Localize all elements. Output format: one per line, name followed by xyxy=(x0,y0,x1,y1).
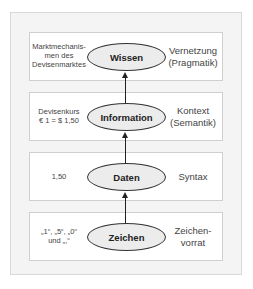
text-line: Syntax xyxy=(164,171,222,183)
arrow-line xyxy=(125,197,126,223)
arrowhead-icon xyxy=(122,192,128,198)
example-label: Devisenkurs € 1 = $ 1,50 xyxy=(30,107,88,125)
node-daten: Daten xyxy=(87,163,166,191)
example-label: 1,50 xyxy=(30,172,88,181)
text-line: 1,50 xyxy=(30,172,88,181)
layer-zeichen: „1“, „5“, „0“ und „,“ Zeichen Zeichen- v… xyxy=(29,212,223,261)
text-line: (Semantik) xyxy=(164,117,222,129)
arrowhead-icon xyxy=(122,132,128,138)
text-line: Kontext xyxy=(164,105,222,117)
text-line: Marktmechanis- xyxy=(30,42,88,51)
text-line: Devisenmarktes xyxy=(30,60,88,69)
example-label: „1“, „5“, „0“ und „,“ xyxy=(30,227,88,245)
node-zeichen: Zeichen xyxy=(87,223,166,251)
text-line: Zeichen- xyxy=(164,225,222,237)
text-line: vorrat xyxy=(164,237,222,249)
node-wissen: Wissen xyxy=(87,43,166,71)
text-line: men des xyxy=(30,51,88,60)
level-label: Vernetzung (Pragmatik) xyxy=(164,45,222,69)
level-label: Kontext (Semantik) xyxy=(164,105,222,129)
arrowhead-icon xyxy=(122,72,128,78)
example-label: Marktmechanis- men des Devisenmarktes xyxy=(30,42,88,69)
node-information: Information xyxy=(87,103,166,131)
text-line: (Pragmatik) xyxy=(164,57,222,69)
text-line: Devisenkurs xyxy=(30,107,88,116)
text-line: „1“, „5“, „0“ xyxy=(30,227,88,236)
text-line: € 1 = $ 1,50 xyxy=(30,116,88,125)
level-label: Syntax xyxy=(164,171,222,183)
text-line: und „,“ xyxy=(30,236,88,245)
level-label: Zeichen- vorrat xyxy=(164,225,222,249)
arrow-line xyxy=(125,137,126,163)
arrow-line xyxy=(125,77,126,103)
text-line: Vernetzung xyxy=(164,45,222,57)
